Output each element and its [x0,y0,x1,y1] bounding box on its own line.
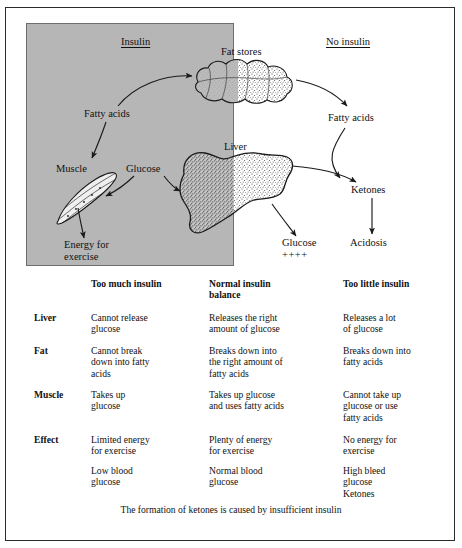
label-glucose-right: Glucose [282,237,316,249]
cell-effect-too-much: Limited energy for exercise [91,434,203,457]
muscle-graphic [56,172,124,230]
row-label-fat: Fat [34,345,48,356]
label-fatty-acids-left: Fatty acids [84,108,130,120]
label-glucose-left: Glucose [126,163,160,175]
label-energy-line1: Energy for [64,239,109,251]
row-label-muscle: Muscle [34,389,63,400]
label-fatty-acids-right: Fatty acids [328,112,374,124]
label-acidosis: Acidosis [350,237,387,249]
label-ketones: Ketones [351,184,385,196]
column-header-normal: Normal insulin balance [209,278,329,301]
label-insulin: Insulin [121,36,150,48]
row-label-liver: Liver [34,312,56,323]
cell-fat-too-much: Cannot break down into fatty acids [91,345,203,379]
label-no-insulin: No insulin [326,36,370,48]
label-glucose-plus: ++++ [282,249,308,261]
table-caption: The formation of ketones is caused by in… [6,504,456,515]
label-muscle: Muscle [56,163,87,175]
insulin-metabolism-diagram: Insulin No insulin Fat stores Fatty acid… [6,8,456,266]
insulin-comparison-table: Too much insulin Normal insulin balance … [6,266,456,540]
label-fat-stores: Fat stores [221,46,262,58]
figure-frame: Insulin No insulin Fat stores Fatty acid… [5,7,455,541]
cell-muscle-normal: Takes up glucose and uses fatty acids [209,389,337,412]
cell-muscle-too-much: Takes up glucose [91,389,203,412]
cell-glucose-too-much: Low blood glucose [91,465,203,488]
column-header-too-little: Too little insulin [343,278,448,289]
fat-stores-graphic [196,56,298,108]
label-energy-line2: exercise [64,251,98,263]
cell-glucose-too-little: High bleed glucose Ketones [343,465,448,499]
cell-glucose-normal: Normal blood glucose [209,465,337,488]
cell-liver-too-much: Cannot release glucose [91,312,203,335]
row-label-effect: Effect [34,434,59,445]
cell-fat-too-little: Breaks down into fatty acids [343,345,448,368]
label-liver: Liver [224,141,247,153]
cell-effect-too-little: No energy for exercise [343,434,448,457]
cell-liver-too-little: Releases a lot of glucose [343,312,448,335]
cell-liver-normal: Releases the right amount of glucose [209,312,337,335]
column-header-too-much: Too much insulin [91,278,201,289]
cell-effect-normal: Plenty of energy for exercise [209,434,337,457]
liver-graphic [176,146,301,241]
cell-muscle-too-little: Cannot take up glucose or use fatty acid… [343,389,448,423]
cell-fat-normal: Breaks down into the right amount of fat… [209,345,337,379]
